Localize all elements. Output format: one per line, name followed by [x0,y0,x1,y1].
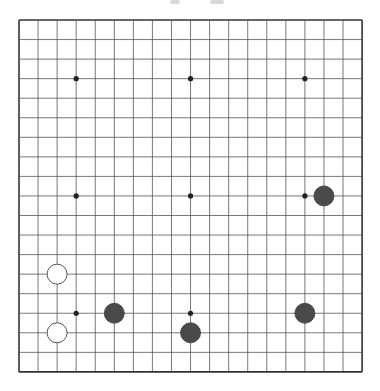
star-point-icon [188,193,193,198]
star-point-icon [188,311,193,316]
black-stone-icon [181,323,201,343]
star-point-icon [188,76,193,81]
black-stone-icon [314,186,334,206]
black-stone-icon [295,303,315,323]
go-board[interactable] [0,0,380,391]
black-stone-icon [104,303,124,323]
star-point-icon [302,76,307,81]
white-stone-icon [47,323,67,343]
star-point-icon [74,311,79,316]
star-point-icon [74,76,79,81]
star-point-icon [74,193,79,198]
white-stone-icon [47,264,67,284]
star-point-icon [302,193,307,198]
